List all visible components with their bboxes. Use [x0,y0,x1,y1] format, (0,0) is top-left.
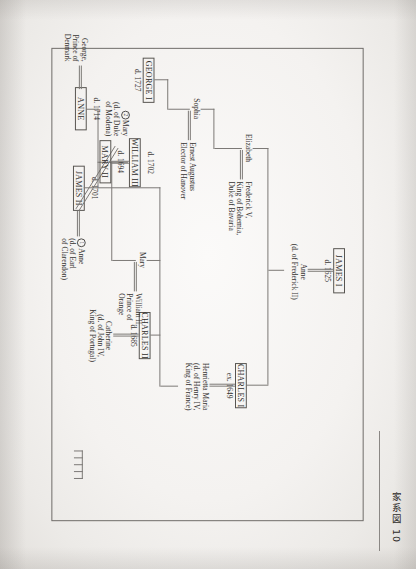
descent-bar-sophia [167,79,168,109]
connector-mary [147,259,161,260]
spouse-anne-denmark: Anne (d. of Frederick II) [290,231,307,312]
spouse-george-denmark: George, Prince of Denmark [62,0,87,61]
sibling-bar-gen2 [267,148,268,385]
family-tree-diagram: JAMES I d. 1625 Anne (d. of Frederick II… [39,40,378,531]
descent-bar-elizabeth [213,108,214,148]
figure-caption: 家系図 10 [382,492,402,543]
descent-line-charles1 [160,385,178,386]
marriage-order-2: 2 [121,110,130,119]
person-label-mary: Mary [137,234,145,285]
person-name-charles1: CHARLES I [236,363,245,407]
person-box-anne: ANNE [75,87,87,130]
person-box-william3: WILLIAM III [129,138,141,187]
marriage-line-sophia [188,110,191,139]
spouse-mary-modena: 2Mary (d. of Duke of Modena) [104,53,130,135]
page-background: JAMES I d. 1625 Anne (d. of Frederick II… [0,0,416,569]
person-name-james1: JAMES I [335,254,344,286]
marriage-line-mary [134,261,137,290]
marriage-line-charles1 [209,383,235,386]
descent-line-elizabeth [214,148,241,149]
sibling-bar-gen3 [159,187,160,386]
marriage-line-anne [79,65,82,89]
spouse-catherine: Catherine (d. of John IV, King of Portug… [87,295,112,376]
person-box-charles1: CHARLES I [235,363,247,408]
person-name-anne: ANNE [76,97,85,120]
descent-line-james1 [268,269,284,270]
person-date-william3: d. 1702 [145,138,153,187]
marriage-line-elizabeth [240,149,243,178]
person-box-james1: JAMES I [333,248,345,293]
connector-charles2 [151,334,161,335]
person-box-george1: GEORGE I [143,57,155,102]
descent-line-sophia [168,108,190,109]
descent-line-mary [112,259,136,260]
spouse-henrietta: Henrietta Maria (d. of Henry IV, King of… [183,344,208,428]
connector-charles1 [247,384,269,385]
person-label-sophia: Sophia [191,83,199,134]
marriage-order-1: 1 [77,238,86,247]
connector-sophia [201,108,215,109]
tick-comb [69,450,83,509]
person-name-mary2: MARY II [101,145,110,177]
person-date-anne: d. 1714 [91,87,99,130]
person-date-george1: d. 1727 [132,57,140,102]
connector-george1 [154,79,168,80]
rotated-figure-wrapper: JAMES I d. 1625 Anne (d. of Frederick II… [39,40,378,531]
connector-elizabeth [253,148,269,149]
spouse-anne-clarendon: 1Anne (d. of Earl of Clarendon) [59,238,85,280]
caption-rule [379,431,380,551]
marriage-line-william3-mary2 [110,160,129,163]
spouse-william2: William II, Prince of Orange [116,293,141,326]
person-name-william3: WILLIAM III [130,138,139,186]
spouse-ernest-augustus: Ernest Augustus Elector of Hanover [179,142,196,199]
marriage-line-charles2 [113,333,139,336]
marriage-line-james1 [308,268,334,271]
spouse-frederick5: Frederick V, King of Bohemia, Duke of Ba… [226,181,251,235]
person-name-george1: GEORGE I [144,60,153,99]
person-label-elizabeth: Elizabeth [243,120,251,175]
